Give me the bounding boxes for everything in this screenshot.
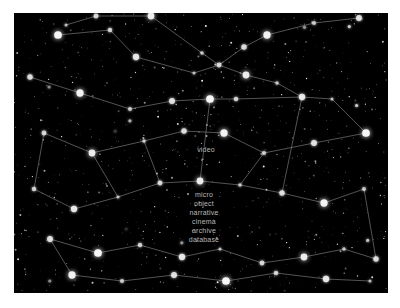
star-node[interactable]: [120, 279, 124, 283]
star-node[interactable]: [171, 272, 177, 278]
star-node[interactable]: [32, 187, 36, 191]
star-node[interactable]: [260, 261, 265, 266]
star-node[interactable]: [279, 190, 284, 195]
star-node[interactable]: [274, 271, 278, 275]
star-node[interactable]: [94, 14, 99, 19]
star-node[interactable]: [362, 187, 366, 191]
star-node[interactable]: [181, 128, 186, 133]
star-node[interactable]: [369, 280, 372, 283]
star-node[interactable]: [219, 248, 222, 251]
star-node[interactable]: [138, 243, 142, 247]
concept-label-database[interactable]: database: [189, 236, 219, 244]
star-node[interactable]: [373, 256, 378, 261]
star-node[interactable]: [243, 72, 250, 79]
star-node[interactable]: [263, 31, 270, 38]
star-node[interactable]: [89, 150, 96, 157]
star-node[interactable]: [200, 51, 203, 54]
star-node[interactable]: [108, 28, 112, 32]
star-node[interactable]: [76, 89, 83, 96]
star-node[interactable]: [54, 31, 62, 39]
star-node[interactable]: [47, 236, 53, 242]
star-node[interactable]: [27, 74, 32, 79]
star-node[interactable]: [217, 63, 222, 68]
concept-label-object[interactable]: object: [194, 200, 214, 208]
star-node[interactable]: [197, 178, 204, 185]
star-node[interactable]: [193, 72, 196, 75]
concept-label-narrative[interactable]: narrative: [189, 209, 218, 217]
star-node[interactable]: [299, 94, 305, 100]
star-node[interactable]: [220, 129, 227, 136]
star-node[interactable]: [42, 131, 47, 136]
concept-label-cinema[interactable]: cinema: [192, 218, 216, 226]
star-node[interactable]: [94, 249, 102, 257]
star-node[interactable]: [342, 247, 345, 250]
star-node[interactable]: [71, 206, 77, 212]
star-node[interactable]: [222, 277, 230, 285]
star-node[interactable]: [169, 98, 175, 104]
star-node[interactable]: [356, 15, 362, 21]
star-node[interactable]: [148, 13, 155, 19]
star-node[interactable]: [128, 107, 132, 111]
star-node[interactable]: [117, 196, 120, 199]
concept-label-micro[interactable]: micro: [195, 191, 213, 199]
star-node[interactable]: [323, 276, 329, 282]
star-node[interactable]: [65, 24, 68, 27]
star-node[interactable]: [142, 139, 145, 142]
star-node[interactable]: [312, 21, 316, 25]
concept-label-video[interactable]: video: [197, 146, 215, 154]
star-node[interactable]: [320, 199, 327, 206]
concept-label-archive[interactable]: archive: [192, 227, 216, 235]
star-node[interactable]: [238, 183, 241, 186]
star-node[interactable]: [331, 98, 334, 101]
star-node[interactable]: [158, 181, 163, 186]
star-node[interactable]: [301, 254, 308, 261]
star-node[interactable]: [206, 95, 214, 103]
star-node[interactable]: [241, 44, 246, 49]
star-node[interactable]: [68, 271, 75, 278]
star-node[interactable]: [275, 81, 278, 84]
star-node[interactable]: [262, 151, 266, 155]
star-node[interactable]: [362, 129, 370, 137]
star-node[interactable]: [133, 54, 139, 60]
star-node[interactable]: [234, 97, 238, 101]
sky-canvas[interactable]: videomicroobjectnarrativecinemaarchiveda…: [14, 13, 388, 293]
star-node[interactable]: [179, 254, 185, 260]
star-node[interactable]: [311, 140, 317, 146]
star-map-app: videomicroobjectnarrativecinemaarchiveda…: [0, 0, 400, 308]
